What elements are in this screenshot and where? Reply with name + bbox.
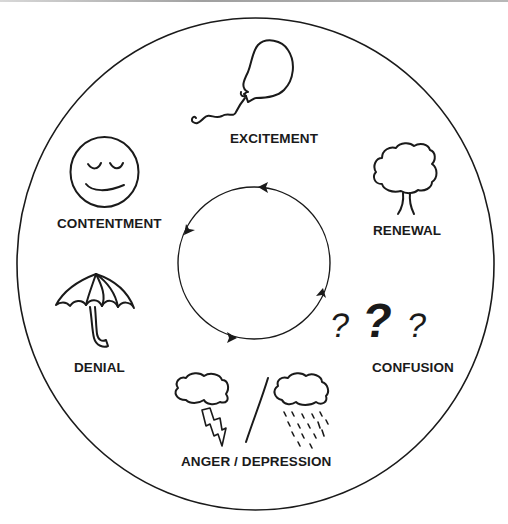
umbrella-icon xyxy=(56,274,134,347)
question-marks-icon: ? ? ? xyxy=(328,293,429,347)
svg-text:?: ? xyxy=(328,306,352,344)
stage-label-excitement: EXCITEMENT xyxy=(230,132,318,146)
smiley-face-icon xyxy=(71,137,139,207)
svg-text:?: ? xyxy=(359,293,396,347)
rain-drops-icon xyxy=(284,412,328,448)
storm-cloud-and-rain-cloud-icon xyxy=(176,373,328,448)
slash-divider xyxy=(246,378,268,442)
svg-text:?: ? xyxy=(405,306,429,344)
inner-cycle xyxy=(178,182,330,343)
stage-label-anger-depression: ANGER / DEPRESSION xyxy=(181,455,331,469)
stage-label-contentment: CONTENTMENT xyxy=(57,217,162,231)
stage-label-renewal: RENEWAL xyxy=(373,224,441,238)
stage-label-denial: DENIAL xyxy=(74,361,125,375)
storm-cloud-icon xyxy=(176,373,228,404)
arrow-left-icon xyxy=(184,224,195,235)
arrow-bottom-icon xyxy=(227,332,237,343)
cycle-diagram: ? ? ? xyxy=(0,0,508,524)
tree-icon xyxy=(374,143,437,214)
rain-cloud-icon xyxy=(275,373,329,405)
stage-label-confusion: CONFUSION xyxy=(372,361,454,375)
lightning-icon xyxy=(202,408,226,446)
balloon-icon xyxy=(192,40,293,123)
outer-circle xyxy=(17,18,494,510)
